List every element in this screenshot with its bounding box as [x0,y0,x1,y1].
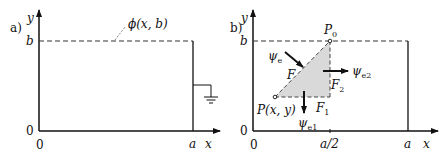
tick-b: b [240,34,248,48]
panel-a-label: a) [10,21,22,35]
y-axis-label: y [240,11,248,25]
tick-origin-y: 0 [26,124,34,138]
ground-icon [193,85,218,103]
point-P0-label: P0 [323,23,337,39]
psi-e2-label: ψe2 [352,64,371,80]
boundary-potential-label: ϕ(x, b) [128,17,168,31]
F2-label: F2 [330,78,344,94]
hypotenuse-label: F [286,68,296,82]
tick-origin-x: 0 [250,138,258,152]
y-axis-label: y [26,11,34,25]
figure: a) y x b 0 0 a ϕ(x, b) b) y x [0,0,447,154]
boundary-leader [115,27,125,40]
psi-e1-label: ψe1 [298,116,317,132]
psi-e-arrow [285,52,303,67]
point-P [273,95,277,99]
panel-b: b) y x b 0 0 a/2 a P0 P(x, y) F F2 F1 [230,10,438,152]
point-P-label: P(x, y) [256,103,296,117]
F1-label: F1 [315,101,329,117]
x-axis-label: x [423,137,430,151]
tick-origin-y: 0 [240,124,248,138]
tick-half-a: a/2 [320,137,339,151]
tick-a: a [189,137,196,151]
point-P0 [328,39,332,43]
panel-a: a) y x b 0 0 a ϕ(x, b) [10,10,220,152]
x-axis-label: x [205,137,212,151]
tick-origin-x: 0 [36,138,44,152]
tick-b: b [26,34,34,48]
tick-a: a [404,137,411,151]
psi-e-label: ψe [268,49,282,65]
